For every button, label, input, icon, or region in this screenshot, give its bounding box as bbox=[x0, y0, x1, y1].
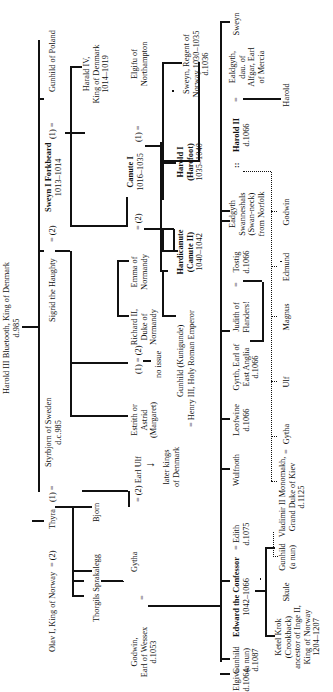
node-gunhild-granddaughter: Gunhild (a nun) bbox=[278, 543, 297, 570]
connector-line bbox=[70, 66, 82, 68]
marriage-label: (1) = bbox=[48, 485, 57, 502]
node-harald-iv: Harald IV, King of Denmark 1014–1019 bbox=[82, 44, 111, 103]
node-styrbjorn-of-sweden: Styrbjorn of Sweden d.c.985 bbox=[44, 398, 63, 467]
node-leofwine: Leofwine d.1066 bbox=[232, 404, 251, 436]
marriage-label: (1) = bbox=[134, 125, 143, 142]
node-name: Ealdgyth, bbox=[228, 47, 238, 87]
node-dates: 1013–1014 bbox=[54, 143, 64, 212]
node-title: Grand Duke of Kiev bbox=[288, 457, 298, 538]
marriage-symbol: (1) = bbox=[48, 485, 58, 502]
node-dates: 1204–1207 bbox=[312, 605, 322, 669]
node-name: = (2) Earl Ulf bbox=[134, 456, 143, 502]
node-name: Vladimir II Monomakh, bbox=[278, 457, 288, 538]
node-title: Normandy bbox=[149, 309, 159, 345]
node-name-alt: Astrid bbox=[140, 402, 150, 438]
connector-line bbox=[220, 580, 230, 582]
node-harold-ii: Harold II d.1066 bbox=[232, 118, 251, 152]
node-title: King of Denmark bbox=[92, 44, 102, 103]
node-skule: Skule bbox=[282, 582, 292, 601]
node-note: (a nun) bbox=[288, 543, 298, 570]
node-name: Estrith or bbox=[130, 402, 140, 438]
node-gyrth: Gyrth, Earl of East Anglia d.1066 bbox=[232, 344, 261, 391]
node-epithet: (Crookback) bbox=[284, 605, 294, 669]
connector-line bbox=[65, 132, 85, 134]
node-title: of Mercia bbox=[257, 47, 267, 87]
node-dates: 1014–1019 bbox=[101, 44, 111, 103]
marriage-symbol: = bbox=[232, 545, 242, 550]
node-label: no issue bbox=[154, 351, 163, 378]
node-name: Richard II, bbox=[130, 309, 140, 345]
node-title: Norway 1030–1035 bbox=[192, 31, 202, 98]
node-title: East Anglia bbox=[242, 344, 252, 391]
node-dates: d.1064 bbox=[242, 668, 252, 691]
connector-line bbox=[220, 21, 230, 23]
node-name: Judith of bbox=[232, 301, 242, 333]
node-title: dau. of bbox=[238, 47, 248, 87]
node-name: Sweyn, Regent of bbox=[182, 31, 192, 98]
marriage-symbol-informal: :: bbox=[232, 162, 242, 168]
connector-line bbox=[162, 162, 176, 164]
node-thyra: Thyra bbox=[48, 509, 58, 529]
marriage-symbol: = bbox=[282, 449, 292, 454]
marriage-symbol: (1) = bbox=[48, 122, 58, 139]
connector-line bbox=[220, 468, 230, 470]
connector-line bbox=[117, 260, 119, 317]
node-name: = Henry III, Holy Roman Emperor bbox=[187, 310, 196, 427]
node-name: Elgiva bbox=[232, 668, 242, 691]
node-name: Gunhild bbox=[278, 543, 288, 570]
connector-line bbox=[243, 98, 269, 100]
node-dates: d.1087 bbox=[251, 646, 261, 673]
marriage-symbol: = bbox=[232, 97, 242, 102]
connector-line bbox=[143, 360, 151, 362]
node-name: Thyra bbox=[48, 509, 57, 529]
connector-line bbox=[269, 98, 281, 100]
connector-line bbox=[172, 90, 174, 92]
node-gunhild-kunigunde: Gunhild (Kunigunde) bbox=[176, 325, 186, 397]
node-name: Canute I bbox=[126, 153, 136, 191]
node-dates: d.1066 bbox=[242, 250, 252, 273]
node-tostig: Tostig d.1066 bbox=[232, 250, 251, 273]
connector-line bbox=[173, 228, 174, 230]
connector-line bbox=[220, 673, 230, 675]
connector-line bbox=[70, 362, 128, 364]
node-title: Earl of Wessex bbox=[140, 627, 150, 677]
marriage-label: (1) = (2) bbox=[134, 346, 143, 374]
connector-line bbox=[70, 67, 72, 227]
node-epithet: (Canute II) bbox=[186, 229, 196, 274]
node-name: Skule bbox=[282, 582, 291, 601]
connector-line bbox=[101, 580, 123, 582]
connector-line bbox=[162, 229, 164, 252]
dotted-connector bbox=[271, 211, 277, 212]
node-title: King of Norway bbox=[303, 605, 313, 669]
node-olav-i: Olav I, King of Norway bbox=[48, 572, 58, 652]
connector-line bbox=[22, 326, 39, 328]
node-name: Gyrth, Earl of bbox=[232, 344, 242, 391]
node-ulf: Ulf bbox=[282, 376, 292, 387]
node-henry-iii: = Henry III, Holy Roman Emperor bbox=[187, 310, 197, 427]
connector-line bbox=[220, 418, 230, 420]
node-name: Harold bbox=[282, 83, 291, 106]
node-canute-i: Canute I 1016–1035 bbox=[126, 153, 145, 191]
connector-line bbox=[260, 578, 261, 580]
node-dates: 1040–1042 bbox=[195, 229, 205, 274]
node-name: Eadgyth bbox=[228, 192, 238, 237]
node-hardicanute: Hardicanute (Canute II) 1040–1042 bbox=[176, 229, 205, 274]
node-wulfnoth: Wulfnoth bbox=[232, 454, 242, 486]
node-epithet: (Swan-neck) bbox=[247, 192, 257, 237]
node-title: Northampton bbox=[140, 42, 150, 87]
node-name: Wulfnoth bbox=[232, 454, 241, 486]
marriage-label: = bbox=[232, 97, 241, 102]
connector-line bbox=[162, 62, 182, 64]
node-elgifu: Elgifu of Northampton bbox=[130, 42, 149, 87]
marriage-symbol: = (2) bbox=[48, 550, 58, 567]
connector-line bbox=[265, 547, 267, 637]
connector-line bbox=[72, 572, 74, 597]
connector-line bbox=[117, 260, 129, 262]
marriage-label: = bbox=[138, 595, 147, 600]
node-dates: 1042–1066 bbox=[242, 557, 252, 637]
node-harold-son: Harold bbox=[282, 83, 292, 106]
connector-line bbox=[128, 491, 130, 507]
node-dates: d.1053 bbox=[149, 627, 159, 677]
node-name: Gytha bbox=[130, 552, 139, 572]
node-dates: d.c.985 bbox=[54, 398, 64, 467]
